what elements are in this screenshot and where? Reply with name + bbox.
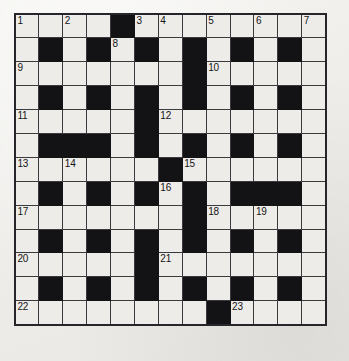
crossword-cell[interactable]: [278, 14, 302, 38]
crossword-cell[interactable]: [302, 157, 326, 181]
crossword-cell[interactable]: [302, 229, 326, 253]
crossword-cell[interactable]: [182, 253, 206, 277]
crossword-cell[interactable]: [254, 301, 278, 325]
crossword-cell-numbered[interactable]: 14: [63, 157, 87, 181]
crossword-cell[interactable]: [206, 86, 230, 110]
crossword-cell[interactable]: [111, 133, 135, 157]
crossword-cell[interactable]: [254, 133, 278, 157]
crossword-cell[interactable]: [39, 205, 63, 229]
crossword-cell[interactable]: [15, 133, 39, 157]
crossword-cell[interactable]: [206, 181, 230, 205]
crossword-cell[interactable]: [63, 205, 87, 229]
crossword-cell[interactable]: [111, 205, 135, 229]
crossword-cell[interactable]: [111, 110, 135, 134]
crossword-cell-numbered[interactable]: 11: [15, 110, 39, 134]
crossword-cell[interactable]: [63, 229, 87, 253]
crossword-cell[interactable]: [39, 62, 63, 86]
crossword-cell[interactable]: [39, 301, 63, 325]
crossword-cell[interactable]: [15, 181, 39, 205]
crossword-cell[interactable]: [230, 62, 254, 86]
crossword-cell[interactable]: [39, 253, 63, 277]
crossword-cell[interactable]: [278, 62, 302, 86]
crossword-cell[interactable]: [278, 301, 302, 325]
crossword-cell[interactable]: [206, 277, 230, 301]
crossword-cell[interactable]: [87, 110, 111, 134]
crossword-cell[interactable]: [302, 86, 326, 110]
crossword-cell[interactable]: [158, 301, 182, 325]
crossword-cell[interactable]: [87, 62, 111, 86]
crossword-cell-numbered[interactable]: 19: [254, 205, 278, 229]
crossword-cell[interactable]: [87, 14, 111, 38]
crossword-cell[interactable]: [254, 86, 278, 110]
crossword-cell-numbered[interactable]: 16: [158, 181, 182, 205]
crossword-cell[interactable]: [254, 229, 278, 253]
crossword-cell[interactable]: [158, 38, 182, 62]
crossword-cell[interactable]: [254, 38, 278, 62]
crossword-cell[interactable]: [182, 14, 206, 38]
crossword-cell[interactable]: [15, 86, 39, 110]
crossword-cell[interactable]: [134, 205, 158, 229]
crossword-cell-numbered[interactable]: 15: [182, 157, 206, 181]
crossword-cell[interactable]: [302, 277, 326, 301]
crossword-cell[interactable]: [63, 110, 87, 134]
crossword-cell[interactable]: [278, 253, 302, 277]
crossword-cell[interactable]: [254, 277, 278, 301]
crossword-cell[interactable]: [63, 38, 87, 62]
crossword-cell-numbered[interactable]: 6: [254, 14, 278, 38]
crossword-cell[interactable]: [111, 253, 135, 277]
crossword-cell[interactable]: [15, 38, 39, 62]
crossword-cell[interactable]: [230, 157, 254, 181]
crossword-cell[interactable]: [158, 133, 182, 157]
crossword-cell-numbered[interactable]: 4: [158, 14, 182, 38]
crossword-cell[interactable]: [111, 229, 135, 253]
crossword-cell[interactable]: [158, 86, 182, 110]
crossword-cell[interactable]: [302, 301, 326, 325]
crossword-cell[interactable]: [182, 301, 206, 325]
crossword-cell-numbered[interactable]: 18: [206, 205, 230, 229]
crossword-cell[interactable]: [134, 301, 158, 325]
crossword-cell[interactable]: [87, 205, 111, 229]
crossword-cell[interactable]: [158, 205, 182, 229]
crossword-cell-numbered[interactable]: 5: [206, 14, 230, 38]
crossword-cell[interactable]: [87, 253, 111, 277]
crossword-cell-numbered[interactable]: 23: [230, 301, 254, 325]
crossword-cell[interactable]: [230, 205, 254, 229]
crossword-cell[interactable]: [302, 205, 326, 229]
crossword-cell[interactable]: [15, 229, 39, 253]
crossword-cell[interactable]: [278, 157, 302, 181]
crossword-cell[interactable]: [111, 157, 135, 181]
crossword-cell[interactable]: [63, 181, 87, 205]
crossword-cell-numbered[interactable]: 3: [134, 14, 158, 38]
crossword-cell[interactable]: [87, 157, 111, 181]
crossword-cell[interactable]: [63, 301, 87, 325]
crossword-cell[interactable]: [158, 62, 182, 86]
crossword-cell[interactable]: [230, 14, 254, 38]
crossword-cell-numbered[interactable]: 9: [15, 62, 39, 86]
crossword-cell-numbered[interactable]: 8: [111, 38, 135, 62]
crossword-cell[interactable]: [278, 110, 302, 134]
crossword-cell-numbered[interactable]: 21: [158, 253, 182, 277]
crossword-cell[interactable]: [302, 38, 326, 62]
crossword-cell[interactable]: [111, 62, 135, 86]
crossword-cell[interactable]: [39, 157, 63, 181]
crossword-cell[interactable]: [230, 253, 254, 277]
crossword-cell[interactable]: [302, 133, 326, 157]
crossword-cell[interactable]: [15, 277, 39, 301]
crossword-cell-numbered[interactable]: 2: [63, 14, 87, 38]
crossword-cell[interactable]: [63, 277, 87, 301]
crossword-cell[interactable]: [206, 157, 230, 181]
crossword-cell-numbered[interactable]: 12: [158, 110, 182, 134]
crossword-cell[interactable]: [63, 86, 87, 110]
crossword-cell[interactable]: [230, 110, 254, 134]
crossword-cell[interactable]: [39, 110, 63, 134]
crossword-cell-numbered[interactable]: 7: [302, 14, 326, 38]
crossword-cell[interactable]: [302, 110, 326, 134]
crossword-cell[interactable]: [182, 110, 206, 134]
crossword-cell[interactable]: [39, 14, 63, 38]
crossword-cell[interactable]: [302, 253, 326, 277]
crossword-cell[interactable]: [158, 277, 182, 301]
crossword-cell-numbered[interactable]: 10: [206, 62, 230, 86]
crossword-cell[interactable]: [206, 133, 230, 157]
crossword-cell[interactable]: [254, 157, 278, 181]
crossword-cell[interactable]: [206, 253, 230, 277]
